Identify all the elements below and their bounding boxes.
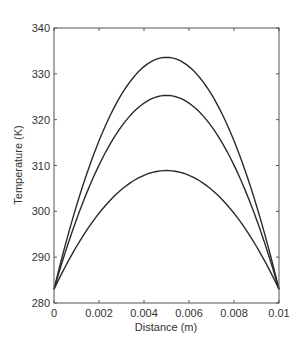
x-tick-label: 0.004: [130, 307, 158, 319]
x-axis-label: Distance (m): [135, 321, 197, 333]
line-curve-2: [54, 95, 279, 289]
x-tick-label: 0.008: [220, 307, 248, 319]
axes-frame: [54, 28, 279, 303]
y-tick-label: 340: [32, 22, 50, 34]
x-tick-label: 0: [51, 307, 57, 319]
line-chart: 00.0020.0040.0060.0080.01 28029030031032…: [0, 0, 301, 349]
line-curve-1: [54, 57, 279, 289]
x-tick-label: 0.006: [175, 307, 203, 319]
y-tick-label: 330: [32, 68, 50, 80]
y-axis-ticks: 280290300310320330340: [32, 22, 279, 309]
y-tick-label: 290: [32, 251, 50, 263]
y-tick-label: 310: [32, 160, 50, 172]
y-tick-label: 280: [32, 297, 50, 309]
x-tick-label: 0.002: [85, 307, 113, 319]
x-tick-label: 0.01: [268, 307, 289, 319]
y-axis-label: Temperature (K): [12, 125, 24, 204]
y-tick-label: 300: [32, 205, 50, 217]
curves: [54, 57, 279, 289]
y-tick-label: 320: [32, 114, 50, 126]
line-curve-3: [54, 171, 279, 290]
